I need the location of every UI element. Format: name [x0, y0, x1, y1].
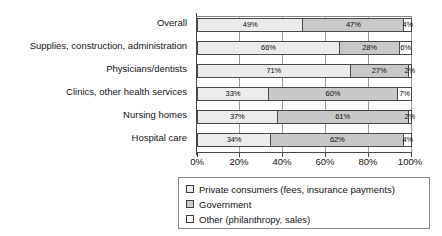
legend-label: Private consumers (fees, insurance payme… [199, 184, 395, 195]
bar-value-label: 60% [326, 90, 341, 98]
bar-segment: 60% [268, 87, 397, 101]
bar-segment: 6% [399, 41, 412, 55]
plot-area: 49%47%4%66%28%6%71%27%2%33%60%7%37%61%2%… [197, 16, 412, 152]
legend-swatch-icon [186, 200, 194, 208]
bar-segment: 34% [197, 133, 270, 147]
bar-row: 33%60%7% [197, 87, 412, 101]
category-axis-labels: Overall Supplies, construction, administ… [0, 16, 192, 152]
bar-segment: 62% [270, 133, 403, 147]
bar-value-label: 27% [372, 67, 387, 75]
bar-segment: 28% [339, 41, 399, 55]
bar-value-label: 2% [405, 113, 416, 121]
legend-item: Private consumers (fees, insurance payme… [186, 182, 423, 196]
x-axis-tick-label: 20% [219, 156, 259, 167]
bar-segment: 4% [403, 133, 412, 147]
bar-value-label: 28% [362, 44, 377, 52]
bar-row: 66%28%6% [197, 41, 412, 55]
x-axis-line [197, 152, 412, 153]
legend-label: Government [199, 199, 251, 210]
bar-segment: 47% [302, 18, 403, 32]
bar-segment: 7% [397, 87, 412, 101]
legend-swatch-icon [186, 185, 194, 193]
bar-segment: 27% [350, 64, 408, 78]
bar-value-label: 34% [227, 136, 242, 144]
bar-segment: 66% [197, 41, 339, 55]
bar-value-label: 4% [402, 21, 413, 29]
bar-value-label: 62% [330, 136, 345, 144]
bar-value-label: 2% [405, 67, 416, 75]
bar-segment: 61% [277, 110, 408, 124]
bar-value-label: 61% [335, 113, 350, 121]
bar-value-label: 33% [226, 90, 241, 98]
bar-segment: 49% [197, 18, 302, 32]
category-label: Supplies, construction, administration [1, 40, 187, 51]
legend-item: Government [186, 197, 423, 211]
legend-label: Other (philanthropy, sales) [199, 214, 310, 225]
bar-row: 37%61%2% [197, 110, 412, 124]
bar-value-label: 4% [402, 136, 413, 144]
category-label: Clinics, other health services [1, 86, 187, 97]
category-label: Overall [1, 17, 187, 28]
category-label: Nursing homes [1, 109, 187, 120]
bar-row: 34%62%4% [197, 133, 412, 147]
gridline [282, 16, 283, 152]
bar-row: 71%27%2% [197, 64, 412, 78]
x-axis-tick-label: 0% [177, 156, 217, 167]
bar-segment: 4% [403, 18, 412, 32]
gridline [411, 16, 412, 152]
bar-segment: 37% [197, 110, 277, 124]
bar-value-label: 37% [230, 113, 245, 121]
x-axis-tick-label: 80% [348, 156, 388, 167]
bar-row: 49%47%4% [197, 18, 412, 32]
bar-segment: 71% [197, 64, 350, 78]
bar-value-label: 71% [266, 67, 281, 75]
chart-legend: Private consumers (fees, insurance payme… [178, 177, 430, 229]
bar-segment: 2% [408, 64, 412, 78]
legend-item: Other (philanthropy, sales) [186, 212, 423, 226]
x-axis-tick-label: 40% [262, 156, 302, 167]
plot-top-border [197, 16, 412, 17]
bar-value-label: 6% [400, 44, 411, 52]
category-label: Hospital care [1, 132, 187, 143]
legend-swatch-icon [186, 215, 194, 223]
bar-segment: 33% [197, 87, 268, 101]
bar-value-label: 47% [346, 21, 361, 29]
bar-segment: 2% [408, 110, 412, 124]
bar-value-label: 49% [243, 21, 258, 29]
gridline [325, 16, 326, 152]
x-axis-tick-label: 60% [305, 156, 345, 167]
bar-value-label: 7% [399, 90, 410, 98]
category-label: Physicians/dentists [1, 63, 187, 74]
gridline [239, 16, 240, 152]
gridline [368, 16, 369, 152]
bar-value-label: 66% [261, 44, 276, 52]
stacked-bar-chart: Overall Supplies, construction, administ… [0, 0, 442, 236]
x-axis-tick-label: 100% [390, 156, 430, 167]
